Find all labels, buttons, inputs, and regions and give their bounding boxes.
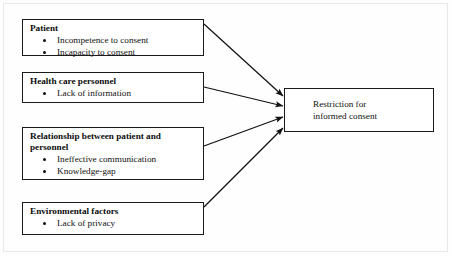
factor-box-title: Health care personnel: [30, 76, 203, 87]
bullet-dot-icon: [43, 39, 46, 42]
bullet-dot-icon: [43, 92, 46, 95]
list-item: Incompetence to consent: [57, 34, 203, 46]
bullet-text: Incapacity to consent: [57, 47, 135, 57]
outcome-box-restriction-for-informed-consent[interactable]: Restriction for informed consent: [284, 88, 434, 132]
factor-bullet-list: Incompetence to consent Incapacity to co…: [23, 34, 203, 58]
bullet-text: Incompetence to consent: [57, 35, 148, 45]
connector-health-care-personnel: [204, 87, 283, 106]
connector-environmental-factors: [204, 128, 283, 207]
bullet-text: Knowledge-gap: [57, 166, 116, 176]
factor-bullet-list: Lack of privacy: [23, 217, 203, 229]
factor-bullet-list: Lack of information: [23, 87, 203, 99]
list-item: Lack of information: [57, 87, 203, 99]
factor-bullet-list: Ineffective communication Knowledge-gap: [23, 153, 203, 177]
list-item: Knowledge-gap: [57, 165, 203, 177]
factor-box-patient[interactable]: Patient Incompetence to consent Incapaci…: [22, 19, 204, 56]
bullet-text: Lack of privacy: [57, 218, 115, 228]
connector-relationship: [204, 117, 283, 146]
diagram-canvas: Patient Incompetence to consent Incapaci…: [0, 0, 452, 256]
bullet-text: Ineffective communication: [57, 154, 156, 164]
outcome-box-text: Restriction for informed consent: [313, 98, 377, 123]
factor-box-title: Patient: [30, 23, 203, 34]
bullet-dot-icon: [43, 170, 46, 173]
bullet-dot-icon: [43, 51, 46, 54]
bullet-dot-icon: [43, 222, 46, 225]
factor-box-health-care-personnel[interactable]: Health care personnel Lack of informatio…: [22, 72, 204, 103]
factor-box-title: Relationship between patient and personn…: [30, 131, 203, 153]
factor-box-relationship-between-patient-and-personnel[interactable]: Relationship between patient and personn…: [22, 127, 204, 180]
connector-patient: [204, 24, 283, 96]
list-item: Incapacity to consent: [57, 46, 203, 58]
outcome-line-1: Restriction for: [313, 99, 366, 109]
factor-box-title: Environmental factors: [30, 206, 203, 217]
list-item: Ineffective communication: [57, 153, 203, 165]
factor-box-environmental-factors[interactable]: Environmental factors Lack of privacy: [22, 202, 204, 235]
bullet-dot-icon: [43, 158, 46, 161]
list-item: Lack of privacy: [57, 217, 203, 229]
bullet-text: Lack of information: [57, 88, 131, 98]
outcome-line-2: informed consent: [313, 111, 377, 121]
